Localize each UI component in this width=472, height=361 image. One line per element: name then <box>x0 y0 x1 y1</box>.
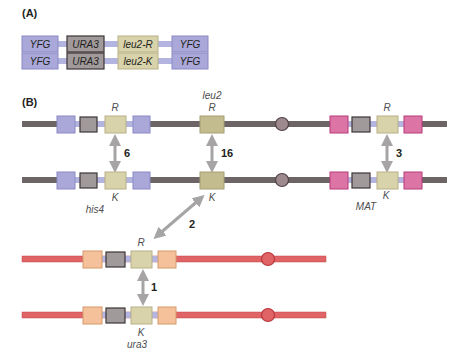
panel-a: (A) YFG URA3 leu2-R YFG YFG URA3 leu2-K … <box>22 7 208 69</box>
rate-mat: 3 <box>396 147 402 159</box>
construct-row-1: YFG URA3 leu2-R YFG <box>22 36 208 52</box>
ura3-box <box>106 252 125 267</box>
leu2-box <box>377 116 398 133</box>
allele-label: K <box>209 192 217 203</box>
chromosome-gray-top: R leu2 R R <box>22 90 447 133</box>
yfg-box <box>133 172 150 189</box>
chromosome-red-top: R <box>22 237 326 268</box>
centromere <box>262 309 275 322</box>
yfg-label: YFG <box>30 56 51 67</box>
centromere <box>262 253 275 266</box>
mat-flank-box <box>404 116 422 133</box>
centromere <box>276 174 289 187</box>
leu2-locus-box <box>200 172 224 189</box>
ura3-label: URA3 <box>72 56 99 67</box>
rate-ectopic: 2 <box>189 218 195 230</box>
leu2-box <box>105 172 126 189</box>
yfg-label: YFG <box>30 39 51 50</box>
ura3-flank-box <box>158 251 176 268</box>
panel-b: (B) R leu2 R R 6 <box>22 90 447 350</box>
ura3-box <box>106 308 125 323</box>
mat-locus-label: MAT <box>356 201 377 212</box>
ura3-label: URA3 <box>72 39 99 50</box>
centromere <box>276 118 289 131</box>
leu2-box <box>131 251 152 268</box>
mat-flank-box <box>330 116 348 133</box>
ura3-flank-box <box>83 251 102 268</box>
yfg-label: YFG <box>180 56 201 67</box>
ura3-box <box>80 173 97 188</box>
allele-label: R <box>208 102 215 113</box>
allele-label: R <box>383 102 390 113</box>
rate-ura3: 1 <box>151 281 157 293</box>
allele-label: R <box>137 237 144 248</box>
chromosome-red-bottom: K ura3 <box>22 307 326 350</box>
chromosome-gray-bottom: K his4 K K MAT <box>22 172 447 215</box>
leu2-r-label: leu2-R <box>123 39 152 50</box>
diagram-canvas: (A) YFG URA3 leu2-R YFG YFG URA3 leu2-K … <box>0 0 472 361</box>
ura3-box <box>352 173 370 188</box>
leu2-box <box>377 172 398 189</box>
his4-locus-label: his4 <box>86 204 105 215</box>
mat-flank-box <box>404 172 422 189</box>
ura3-flank-box <box>158 307 176 324</box>
construct-row-2: YFG URA3 leu2-K YFG <box>22 53 208 69</box>
mat-flank-box <box>330 172 348 189</box>
yfg-box <box>57 116 75 133</box>
panel-a-label: (A) <box>22 7 38 19</box>
yfg-label: YFG <box>180 39 201 50</box>
rate-leu2: 16 <box>221 147 233 159</box>
ura3-box <box>80 117 97 132</box>
ura3-locus-label: ura3 <box>127 339 147 350</box>
rate-his4: 6 <box>124 147 130 159</box>
leu2-locus-label: leu2 <box>203 90 222 101</box>
leu2-locus-box <box>200 116 224 133</box>
ura3-box <box>352 117 370 132</box>
ura3-flank-box <box>83 307 102 324</box>
allele-label: K <box>138 327 146 338</box>
yfg-box <box>57 172 75 189</box>
yfg-box <box>133 116 150 133</box>
allele-label: K <box>383 190 391 201</box>
allele-label: R <box>111 102 118 113</box>
leu2-box <box>105 116 126 133</box>
leu2-box <box>131 307 152 324</box>
allele-label: K <box>112 192 120 203</box>
leu2-k-label: leu2-K <box>124 56 154 67</box>
panel-b-label: (B) <box>22 96 38 108</box>
